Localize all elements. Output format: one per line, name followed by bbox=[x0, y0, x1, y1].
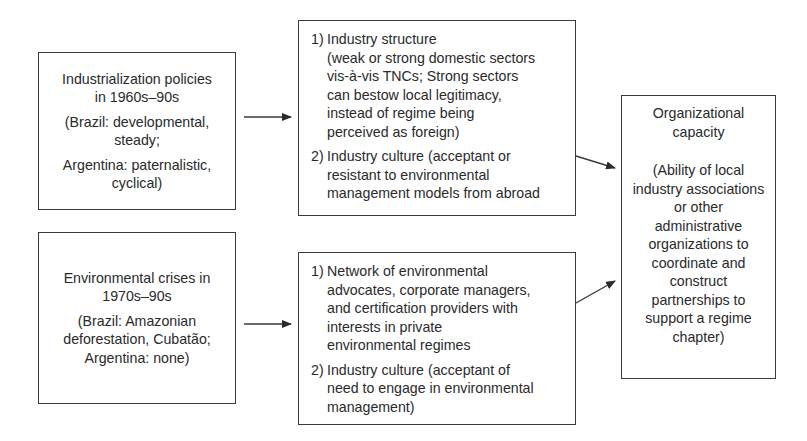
item-number: 1) bbox=[311, 262, 327, 281]
box-industry-structure-culture: 1)Industry structure (weak or strong dom… bbox=[298, 20, 576, 216]
box-detail-line: (Ability of local bbox=[622, 161, 775, 180]
item-text: (weak or strong domestic sectors bbox=[327, 49, 575, 68]
item-text: Industry structure bbox=[327, 31, 437, 47]
box-detail-line: organizations to bbox=[622, 235, 775, 254]
list-item: 2)Industry culture (acceptant or resista… bbox=[311, 147, 575, 203]
box-detail-line: Argentina: paternalistic, bbox=[39, 156, 235, 175]
box-title-line: Environmental crises in bbox=[39, 269, 235, 288]
arrow-structure-to-capacity bbox=[576, 156, 615, 168]
arrow-network-to-capacity bbox=[576, 281, 615, 303]
box-detail-line: support a regime bbox=[622, 309, 775, 328]
box-detail-line: Argentina: none) bbox=[39, 349, 235, 368]
box-title-line: 1970s–90s bbox=[39, 287, 235, 306]
box-detail-line: construct bbox=[622, 272, 775, 291]
list-item: 2)Industry culture (acceptant of need to… bbox=[311, 361, 575, 417]
item-number: 1) bbox=[311, 30, 327, 49]
box-title-line: Industrialization policies bbox=[39, 70, 235, 89]
box-organizational-capacity: Organizational capacity (Ability of loca… bbox=[621, 95, 776, 379]
item-text: environmental regimes bbox=[327, 336, 575, 355]
box-detail-line: industry associations bbox=[622, 180, 775, 199]
item-text: and certification providers with bbox=[327, 299, 575, 318]
box-title-line: capacity bbox=[622, 123, 775, 142]
box-title-line: Organizational bbox=[622, 104, 775, 123]
item-number: 2) bbox=[311, 361, 327, 380]
item-text: perceived as foreign) bbox=[327, 123, 575, 142]
box-detail-line: (Brazil: developmental, bbox=[39, 113, 235, 132]
item-text: management models from abroad bbox=[327, 184, 575, 203]
item-text: Industry culture (acceptant of bbox=[327, 362, 510, 378]
box-environmental-crises: Environmental crises in 1970s–90s (Brazi… bbox=[38, 232, 236, 404]
item-text: advocates, corporate managers, bbox=[327, 281, 575, 300]
item-text: need to engage in environmental bbox=[327, 379, 575, 398]
box-detail-line: or other bbox=[622, 198, 775, 217]
item-text: Industry culture (acceptant or bbox=[327, 148, 511, 164]
list-item: 1)Network of environmental advocates, co… bbox=[311, 262, 575, 355]
box-detail-line: (Brazil: Amazonian bbox=[39, 312, 235, 331]
item-text: management) bbox=[327, 398, 575, 417]
box-detail-line: coordinate and bbox=[622, 254, 775, 273]
box-industrialization-policies: Industrialization policies in 1960s–90s … bbox=[38, 52, 236, 210]
item-text: Network of environmental bbox=[327, 263, 488, 279]
item-text: instead of regime being bbox=[327, 104, 575, 123]
item-text: can bestow local legitimacy, bbox=[327, 86, 575, 105]
list-item: 1)Industry structure (weak or strong dom… bbox=[311, 30, 575, 141]
box-detail-line: cyclical) bbox=[39, 174, 235, 193]
item-text: resistant to environmental bbox=[327, 166, 575, 185]
item-number: 2) bbox=[311, 147, 327, 166]
item-text: vis-à-vis TNCs; Strong sectors bbox=[327, 67, 575, 86]
box-detail-line: steady; bbox=[39, 131, 235, 150]
box-title-line: in 1960s–90s bbox=[39, 88, 235, 107]
item-text: interests in private bbox=[327, 318, 575, 337]
box-detail-line: chapter) bbox=[622, 328, 775, 347]
box-detail-line: deforestation, Cubatão; bbox=[39, 330, 235, 349]
box-detail-line: administrative bbox=[622, 217, 775, 236]
box-network-industry-culture: 1)Network of environmental advocates, co… bbox=[298, 252, 576, 425]
box-detail-line: partnerships to bbox=[622, 291, 775, 310]
